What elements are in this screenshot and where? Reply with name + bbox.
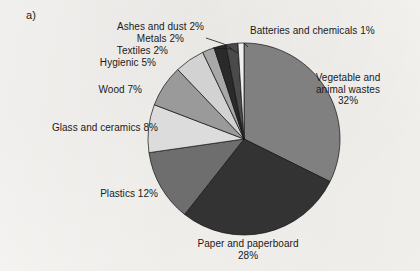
slice-label-paper-and-paperboard: Paper and paperboard 28% [160, 238, 336, 261]
slice-label-textiles: Textiles 2% [44, 45, 168, 57]
slice-label-hygienic: Hygienic 5% [28, 57, 156, 69]
slice-label-glass-and-ceramics: Glass and ceramics 8% [6, 122, 158, 134]
slice-label-vegetable-line2: animal wastes [302, 84, 394, 96]
slice-label-vegetable-line3: 32% [302, 95, 394, 107]
slice-label-paper-line1: Paper and paperboard [160, 238, 336, 250]
slice-label-paper-line2: 28% [160, 250, 336, 262]
slice-label-wood: Wood 7% [22, 84, 142, 96]
slice-label-metals: Metals 2% [58, 33, 184, 45]
slice-label-plastics: Plastics 12% [36, 188, 158, 200]
slice-label-batteries-and-chemicals: Batteries and chemicals 1% [250, 25, 375, 37]
slice-label-vegetable-and-animal-wastes: Vegetable and animal wastes 32% [302, 72, 394, 107]
slice-label-ashes-and-dust: Ashes and dust 2% [62, 21, 204, 33]
figure-panel: a) Vegetable and animal wastes 32% Paper… [0, 0, 420, 271]
slice-label-vegetable-line1: Vegetable and [302, 72, 394, 84]
